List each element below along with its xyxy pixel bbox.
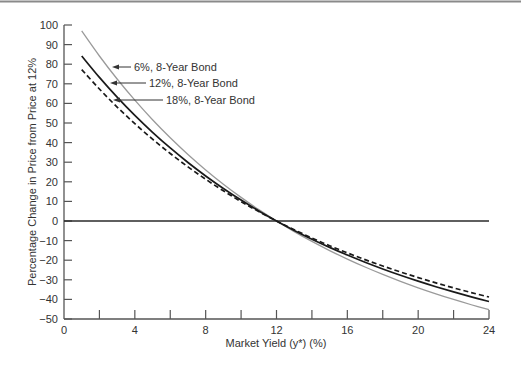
x-tick-label: 8 [203, 324, 209, 336]
y-tick-label: 0 [52, 215, 58, 227]
arrowhead-icon [112, 65, 119, 70]
y-tick-label: 70 [46, 78, 58, 90]
y-tick-label: 40 [46, 137, 58, 149]
annotation-18pct: 18%, 8-Year Bond [113, 94, 255, 106]
x-axis-title: Market Yield (y*) (%) [226, 337, 327, 349]
y-tick-label: −20 [39, 254, 58, 266]
annotation-12pct: 12%, 8-Year Bond [110, 77, 238, 89]
bond-price-change-chart: 1009080706050403020100−10−20−30−40−50048… [0, 0, 521, 368]
annotation-label: 18%, 8-Year Bond [166, 94, 255, 106]
x-tick-label: 4 [132, 324, 138, 336]
annotation-6pct: 6%, 8-Year Bond [112, 61, 217, 73]
x-tick-label: 12 [270, 324, 282, 336]
y-axis-title: Percentage Change in Price from Price at… [26, 58, 38, 286]
series-18pct-bond [82, 70, 489, 297]
y-tick-label: 90 [46, 39, 58, 51]
y-tick-label: 80 [46, 58, 58, 70]
x-tick-label: 0 [61, 324, 67, 336]
y-tick-label: 20 [46, 176, 58, 188]
y-tick-label: 100 [40, 19, 58, 31]
annotation-label: 12%, 8-Year Bond [149, 77, 238, 89]
arrowhead-icon [113, 98, 120, 103]
y-tick-label: −10 [39, 235, 58, 247]
y-tick-label: 10 [46, 195, 58, 207]
y-tick-label: 60 [46, 97, 58, 109]
series-12pct-bond [82, 56, 489, 301]
arrowhead-icon [110, 81, 117, 86]
annotation-label: 6%, 8-Year Bond [134, 61, 217, 73]
y-tick-label: −40 [39, 293, 58, 305]
y-tick-label: −50 [39, 313, 58, 325]
x-tick-label: 16 [341, 324, 353, 336]
y-tick-label: −30 [39, 274, 58, 286]
y-tick-label: 30 [46, 156, 58, 168]
series-annotations: 6%, 8-Year Bond12%, 8-Year Bond18%, 8-Ye… [110, 61, 255, 106]
x-tick-label: 24 [483, 324, 495, 336]
x-tick-label: 20 [412, 324, 424, 336]
y-tick-label: 50 [46, 117, 58, 129]
